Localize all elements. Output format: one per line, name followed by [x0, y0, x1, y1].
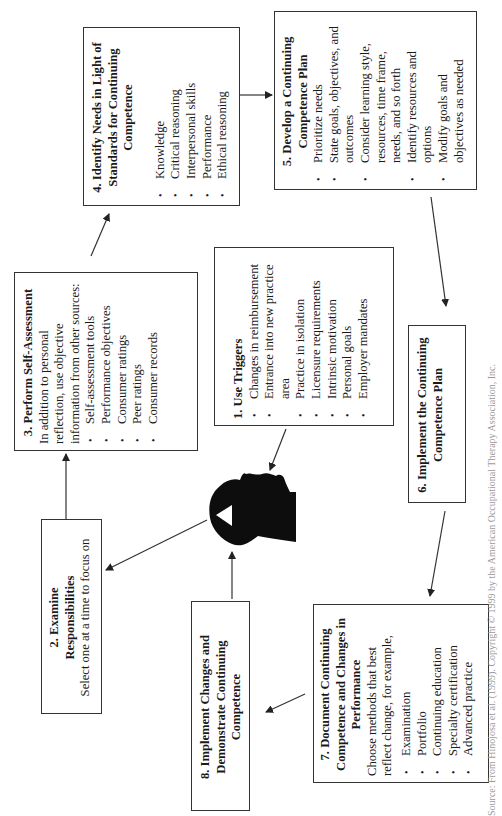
arrow-1-to-head [270, 429, 286, 470]
list-item: Consider learning style, resources, time… [358, 20, 405, 183]
human-head-silhouette-icon [209, 473, 296, 545]
step-3-list: Self-assessment tools Performance object… [83, 281, 161, 444]
step-3-title: 3. Perform Self-Assessment [21, 281, 37, 444]
list-item: Performance objectives [99, 281, 115, 444]
arrow-6-to-7 [430, 511, 445, 596]
arrow-7-to-8 [266, 694, 305, 712]
step-7-description: Choose methods that best reflect change,… [365, 613, 396, 776]
list-item: Performance [200, 36, 216, 199]
arrow-3-to-4 [91, 214, 109, 256]
list-item: Knowledge [153, 36, 169, 199]
step-4-list: Knowledge Critical reasoning Interperson… [153, 36, 231, 199]
list-item: Intrinsic motivation [325, 256, 341, 419]
step-1-use-triggers-box: 1. Use Triggers Changes in reimbursement… [214, 247, 394, 426]
arrow-head-to-2 [106, 520, 207, 570]
list-item: Practice in isolation [293, 256, 309, 419]
step-7-list: Examination Portfolio Continuing educati… [399, 613, 477, 776]
list-item: Continuing education [430, 613, 446, 776]
step-1-title: 1. Use Triggers [231, 256, 247, 419]
step-3-self-assessment-box: 3. Perform Self-Assessment In addition t… [14, 272, 198, 451]
list-item: Modify goals and objectives as needed [436, 20, 467, 183]
list-item: Prioritize needs [311, 20, 327, 183]
list-item: Changes in reimbursement [247, 256, 263, 419]
list-item: Personal goals [340, 256, 356, 419]
list-item: Identify resources and options [405, 20, 436, 183]
step-8-implement-changes-box: 8. Implement Changes and Demonstrate Con… [191, 601, 250, 811]
step-6-title: 6. Implement the Continuing Competence P… [415, 330, 446, 500]
step-5-list: Prioritize needs State goals, objectives… [311, 20, 467, 183]
list-item: State goals, objectives, and outcomes [327, 20, 358, 183]
list-item: Self-assessment tools [83, 281, 99, 444]
step-8-title: 8. Implement Changes and Demonstrate Con… [198, 610, 245, 804]
step-7-document-competence-box: 7. Document Continuing Competence and Ch… [313, 604, 489, 783]
list-item: Consumer records [146, 281, 162, 444]
step-5-title: 5. Develop a Continuing Competence Plan [280, 20, 311, 183]
list-item: Employer mandates [356, 256, 372, 419]
step-4-title: 4. Identify Needs in Light of Standards … [90, 36, 137, 199]
step-4-identify-needs-box: 4. Identify Needs in Light of Standards … [83, 27, 240, 206]
list-item: Critical reasoning [168, 36, 184, 199]
list-item: Advanced practice [461, 613, 477, 776]
step-2-description: Select one at a time to focus on [78, 524, 94, 711]
list-item: Licensure requirements [309, 256, 325, 419]
step-5-develop-plan-box: 5. Develop a Continuing Competence Plan … [274, 11, 477, 190]
list-item: Specialty certification [446, 613, 462, 776]
list-item: Peer ratings [130, 281, 146, 444]
list-item: Entrance into new practice area [262, 256, 293, 419]
list-item: Portfolio [415, 613, 431, 776]
source-caption: Source: From Hinojosa et al. (1999). Cop… [486, 376, 497, 816]
list-item: Examination [399, 613, 415, 776]
list-item: Ethical reasoning [215, 36, 231, 199]
list-item: Consumer ratings [115, 281, 131, 444]
step-1-list: Changes in reimbursement Entrance into n… [247, 256, 372, 419]
list-item: Interpersonal skills [184, 36, 200, 199]
step-2-examine-responsibilities-box: 2. Examine Responsibilities Select one a… [41, 519, 102, 714]
step-6-implement-plan-box: 6. Implement the Continuing Competence P… [408, 325, 466, 503]
step-3-description: In addition to personal reflection, use … [37, 281, 84, 444]
arrow-5-to-6 [431, 197, 446, 306]
step-7-title: 7. Document Continuing Competence and Ch… [318, 613, 365, 776]
step-2-title: 2. Examine Responsibilities [47, 524, 78, 711]
